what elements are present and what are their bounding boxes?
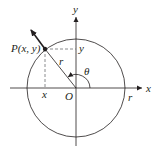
y-axis-label: y: [72, 3, 78, 15]
y-coord-label: y: [78, 42, 84, 54]
x-coord-label: x: [41, 88, 47, 100]
point-p: [43, 47, 47, 51]
theta-label: θ: [84, 65, 90, 77]
x-axis-label: x: [145, 82, 151, 94]
unit-circle-diagram: P(x, y) y y x x O r r θ: [0, 0, 163, 153]
radius-label-outer: r: [128, 91, 133, 103]
origin-label: O: [65, 90, 73, 102]
radius-label-inner: r: [59, 55, 64, 67]
point-label: P(x, y): [10, 42, 41, 55]
